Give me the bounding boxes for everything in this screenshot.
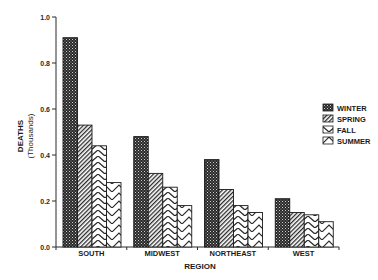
y-axis-title-sub: (Thousands) xyxy=(26,113,35,158)
legend-swatch xyxy=(323,115,333,122)
bar-summer xyxy=(107,183,122,247)
bar-summer xyxy=(248,213,263,248)
bar-group-west xyxy=(275,199,333,247)
category-label: SOUTH xyxy=(78,249,104,258)
y-tick-label: 1.0 xyxy=(40,14,50,21)
bar-group-south xyxy=(63,38,121,247)
y-tick-label: 0.4 xyxy=(40,152,50,159)
category-label: MIDWEST xyxy=(144,249,180,258)
y-tick-label: 0.0 xyxy=(40,244,50,251)
legend-label: WINTER xyxy=(337,104,367,113)
bar-spring xyxy=(290,213,305,248)
legend-swatch xyxy=(323,104,333,111)
y-axis-title: DEATHS (Thousands) xyxy=(16,113,35,158)
legend-swatch xyxy=(323,126,333,133)
bar-spring xyxy=(219,190,234,248)
bar-summer xyxy=(319,222,334,247)
legend-label: SUMMER xyxy=(337,137,371,146)
legend: WINTERSPRINGFALLSUMMER xyxy=(323,104,371,146)
legend-item-fall: FALL xyxy=(323,126,356,135)
y-tick-label: 0.2 xyxy=(40,198,50,205)
bar-fall xyxy=(234,206,249,247)
x-axis: SOUTHMIDWESTNORTHEASTWEST xyxy=(56,247,339,258)
legend-item-winter: WINTER xyxy=(323,104,367,113)
bar-winter xyxy=(205,160,220,247)
y-axis-title-main: DEATHS xyxy=(16,119,25,152)
bar-winter xyxy=(275,199,290,247)
bar-fall xyxy=(304,215,319,247)
category-label: WEST xyxy=(293,249,315,258)
bar-fall xyxy=(163,187,178,247)
y-tick-label: 0.8 xyxy=(40,60,50,67)
bar-winter xyxy=(63,38,78,247)
bar-winter xyxy=(134,137,149,247)
bars xyxy=(63,38,333,247)
bar-group-midwest xyxy=(134,137,192,247)
bar-fall xyxy=(92,146,107,247)
bar-summer xyxy=(177,206,192,247)
y-tick-label: 0.6 xyxy=(40,106,50,113)
bar-chart: 0.00.20.40.60.81.0 SOUTHMIDWESTNORTHEAST… xyxy=(0,0,378,280)
legend-label: SPRING xyxy=(337,115,366,124)
legend-swatch xyxy=(323,137,333,144)
y-axis: 0.00.20.40.60.81.0 xyxy=(40,14,56,251)
bar-group-northeast xyxy=(205,160,263,247)
category-label: NORTHEAST xyxy=(210,249,257,258)
bar-spring xyxy=(78,125,93,247)
legend-item-spring: SPRING xyxy=(323,115,366,124)
legend-item-summer: SUMMER xyxy=(323,137,371,146)
bar-spring xyxy=(148,173,163,247)
x-axis-title: REGION xyxy=(184,262,216,271)
legend-label: FALL xyxy=(337,126,356,135)
